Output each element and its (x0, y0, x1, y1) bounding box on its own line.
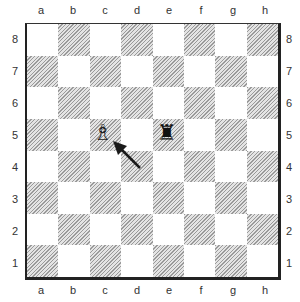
square-h5 (247, 119, 278, 151)
rank-label: 2 (283, 225, 295, 237)
file-label: h (249, 284, 281, 296)
rank-label: 1 (283, 257, 295, 269)
square-d6 (121, 87, 152, 119)
file-label: c (89, 4, 121, 16)
square-b3 (58, 182, 89, 214)
square-f6 (184, 87, 215, 119)
square-b1 (58, 245, 89, 277)
file-label: g (217, 4, 249, 16)
rank-label: 6 (9, 97, 21, 109)
square-f8 (184, 24, 215, 56)
square-g2 (215, 214, 246, 246)
square-g3 (215, 182, 246, 214)
square-a7 (27, 56, 58, 88)
square-c1 (90, 245, 121, 277)
rank-label: 1 (9, 257, 21, 269)
square-b2 (58, 214, 89, 246)
rank-label: 2 (9, 225, 21, 237)
square-b8 (58, 24, 89, 56)
square-b7 (58, 56, 89, 88)
square-d1 (121, 245, 152, 277)
rank-label: 3 (283, 193, 295, 205)
rank-label: 5 (9, 129, 21, 141)
square-d3 (121, 182, 152, 214)
square-b6 (58, 87, 89, 119)
square-e7 (153, 56, 184, 88)
file-label: a (25, 284, 57, 296)
square-f7 (184, 56, 215, 88)
square-f4 (184, 151, 215, 183)
square-g5 (215, 119, 246, 151)
square-h2 (247, 214, 278, 246)
rank-label: 7 (283, 65, 295, 77)
square-a4 (27, 151, 58, 183)
file-label: b (57, 284, 89, 296)
square-h4 (247, 151, 278, 183)
file-label: f (185, 4, 217, 16)
file-label: g (217, 284, 249, 296)
square-h7 (247, 56, 278, 88)
square-d5 (121, 119, 152, 151)
square-e8 (153, 24, 184, 56)
square-f2 (184, 214, 215, 246)
square-f3 (184, 182, 215, 214)
square-d4 (121, 151, 152, 183)
file-label: f (185, 284, 217, 296)
square-c4 (90, 151, 121, 183)
rank-label: 7 (9, 65, 21, 77)
square-a6 (27, 87, 58, 119)
file-label: d (121, 284, 153, 296)
file-label: d (121, 4, 153, 16)
square-d8 (121, 24, 152, 56)
rank-label: 8 (9, 33, 21, 45)
square-h6 (247, 87, 278, 119)
square-b5 (58, 119, 89, 151)
square-e1 (153, 245, 184, 277)
rank-label: 4 (9, 161, 21, 173)
square-h3 (247, 182, 278, 214)
square-g6 (215, 87, 246, 119)
square-g7 (215, 56, 246, 88)
rank-label: 4 (283, 161, 295, 173)
file-label: h (249, 4, 281, 16)
square-e6 (153, 87, 184, 119)
square-a1 (27, 245, 58, 277)
square-d7 (121, 56, 152, 88)
white-bishop-icon: ♗ (93, 122, 113, 144)
square-c8 (90, 24, 121, 56)
chess-board (25, 23, 281, 280)
square-a8 (27, 24, 58, 56)
square-g8 (215, 24, 246, 56)
square-f1 (184, 245, 215, 277)
square-a5 (27, 119, 58, 151)
rank-label: 3 (9, 193, 21, 205)
file-label: e (153, 284, 185, 296)
file-label: a (25, 4, 57, 16)
square-c6 (90, 87, 121, 119)
square-a3 (27, 182, 58, 214)
square-e2 (153, 214, 184, 246)
square-c7 (90, 56, 121, 88)
square-c3 (90, 182, 121, 214)
black-rook-icon: ♜ (157, 122, 177, 144)
square-a2 (27, 214, 58, 246)
rank-label: 5 (283, 129, 295, 141)
square-g1 (215, 245, 246, 277)
square-d2 (121, 214, 152, 246)
square-g4 (215, 151, 246, 183)
square-e3 (153, 182, 184, 214)
file-label: e (153, 4, 185, 16)
file-label: b (57, 4, 89, 16)
square-b4 (58, 151, 89, 183)
rank-label: 6 (283, 97, 295, 109)
square-e4 (153, 151, 184, 183)
square-h1 (247, 245, 278, 277)
square-h8 (247, 24, 278, 56)
square-c2 (90, 214, 121, 246)
square-f5 (184, 119, 215, 151)
file-label: c (89, 284, 121, 296)
rank-label: 8 (283, 33, 295, 45)
